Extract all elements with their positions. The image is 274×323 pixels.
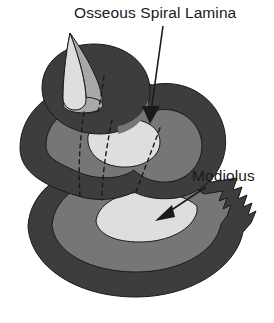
cochlea-illustration: Osseous Spiral Lamina Modiolus (0, 0, 274, 323)
osseous-spiral-lamina-label: Osseous Spiral Lamina (74, 4, 237, 21)
cochlea-diagram: Osseous Spiral Lamina Modiolus (0, 0, 274, 323)
modiolus-label: Modiolus (192, 167, 255, 184)
